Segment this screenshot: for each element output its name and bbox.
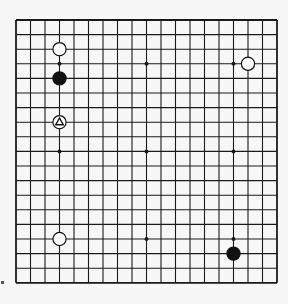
star-point <box>232 62 236 66</box>
scan-artifact <box>1 281 4 284</box>
black-stone <box>227 247 240 260</box>
star-point <box>58 149 62 153</box>
white-stone <box>53 232 66 245</box>
star-point <box>145 62 149 66</box>
star-point <box>232 237 236 241</box>
go-board-diagram <box>0 0 288 304</box>
star-point <box>145 149 149 153</box>
star-point <box>145 237 149 241</box>
black-stone <box>53 72 66 85</box>
star-point <box>232 149 236 153</box>
white-stone <box>53 43 66 56</box>
star-point <box>58 62 62 66</box>
white-stone <box>241 57 254 70</box>
